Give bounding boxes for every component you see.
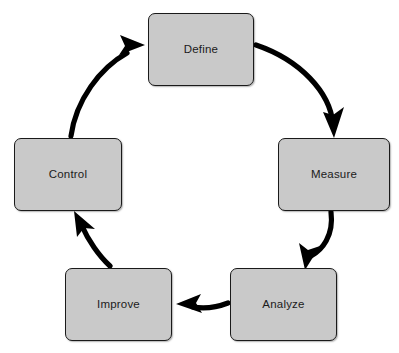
dmaic-cycle-diagram: Define Measure Analyze Improve Control — [0, 0, 399, 353]
node-improve-label: Improve — [97, 299, 140, 311]
edge-control-to-define — [71, 35, 145, 136]
node-define[interactable]: Define — [148, 13, 254, 86]
edge-measure-to-analyze — [299, 212, 331, 270]
node-improve[interactable]: Improve — [65, 268, 172, 341]
node-define-label: Define — [184, 44, 218, 56]
edge-define-to-measure — [256, 45, 344, 138]
node-control-label: Control — [49, 169, 87, 181]
node-analyze[interactable]: Analyze — [230, 268, 337, 341]
node-analyze-label: Analyze — [262, 299, 304, 311]
node-measure[interactable]: Measure — [278, 138, 390, 211]
node-measure-label: Measure — [311, 169, 357, 181]
edge-analyze-to-improve — [176, 294, 228, 313]
edge-improve-to-control — [74, 211, 110, 266]
node-control[interactable]: Control — [14, 138, 122, 211]
